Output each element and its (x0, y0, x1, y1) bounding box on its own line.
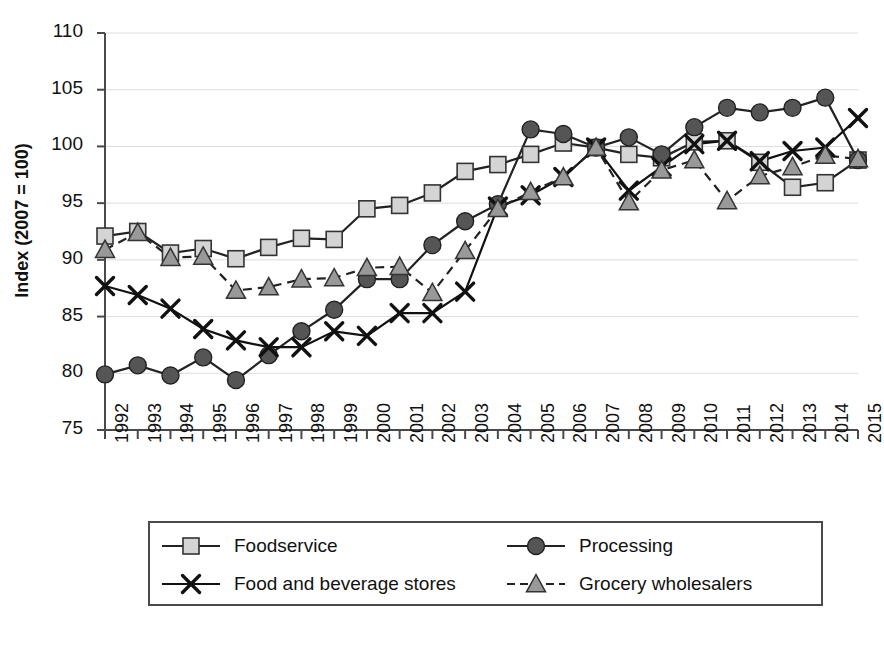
marker-circle (227, 372, 244, 389)
x-tick-label: 2002 (439, 403, 460, 443)
marker-circle (719, 99, 736, 116)
x-tick-label: 2009 (669, 403, 690, 443)
x-tick-label: 1999 (341, 403, 362, 443)
marker-circle (555, 125, 572, 142)
marker-x (162, 300, 179, 317)
x-tick-label: 2004 (505, 403, 526, 443)
x-tick-label: 2007 (603, 403, 624, 443)
series-line (105, 118, 858, 347)
x-tick-label: 1995 (210, 403, 231, 443)
marker-square (523, 146, 539, 162)
marker-x (850, 110, 867, 127)
x-tick-label: 2001 (407, 403, 428, 443)
marker-circle (293, 323, 310, 340)
legend-swatch-circle-icon (505, 534, 567, 558)
marker-x (227, 332, 244, 349)
marker-square (817, 175, 833, 191)
y-tick-label: 110 (37, 20, 83, 42)
marker-circle (528, 538, 545, 555)
legend-label: Food and beverage stores (234, 573, 456, 595)
marker-square (424, 185, 440, 201)
legend-swatch-x-icon (160, 572, 222, 596)
x-tick-label: 2000 (374, 403, 395, 443)
y-tick-label: 75 (37, 417, 83, 439)
marker-square (326, 231, 342, 247)
marker-circle (162, 367, 179, 384)
y-tick-label: 95 (37, 190, 83, 212)
x-tick-label: 2015 (865, 403, 884, 443)
marker-circle (686, 119, 703, 136)
x-tick-label: 2010 (701, 403, 722, 443)
y-axis-label-container: Index (2007 = 100) (2, 0, 42, 440)
marker-square (490, 157, 506, 173)
marker-triangle (357, 258, 376, 275)
x-tick-label: 1993 (145, 403, 166, 443)
gridlines (105, 33, 858, 373)
marker-square (392, 197, 408, 213)
marker-circle (620, 129, 637, 146)
marker-square (293, 230, 309, 246)
axes (97, 33, 858, 430)
series-markers (97, 89, 867, 388)
series-foodservice (105, 141, 858, 259)
y-axis-label: Index (2007 = 100) (12, 143, 33, 298)
marker-circle (129, 357, 146, 374)
marker-circle (195, 349, 212, 366)
marker-triangle (718, 191, 737, 208)
series-grocery-wholesalers (105, 148, 858, 293)
legend-item-processing[interactable]: Processing (505, 533, 673, 559)
marker-triangle (456, 241, 475, 258)
x-tick-label: 2008 (636, 403, 657, 443)
marker-x (457, 283, 474, 300)
x-tick-label: 2006 (570, 403, 591, 443)
legend-label: Foodservice (234, 535, 338, 557)
x-tick-label: 1996 (243, 403, 264, 443)
legend-item-foodservice[interactable]: Foodservice (160, 533, 338, 559)
series-line (105, 148, 858, 293)
series-layer (96, 89, 868, 388)
marker-circle (522, 121, 539, 138)
marker-square (261, 239, 277, 255)
y-tick-label: 90 (37, 247, 83, 269)
legend-label: Grocery wholesalers (579, 573, 752, 595)
marker-x (195, 321, 212, 338)
legend-item-grocery-wholesalers[interactable]: Grocery wholesalers (505, 571, 752, 597)
marker-square (359, 201, 375, 217)
y-tick-label: 100 (37, 133, 83, 155)
y-tick-label: 80 (37, 360, 83, 382)
legend-item-food-and-beverage-stores[interactable]: Food and beverage stores (160, 571, 456, 597)
x-tick-label: 1997 (276, 403, 297, 443)
marker-circle (751, 104, 768, 121)
series-line (105, 98, 858, 380)
marker-circle (97, 366, 114, 383)
marker-square (228, 251, 244, 267)
legend-swatch-triangle-icon (505, 572, 567, 596)
x-tick-label: 2014 (832, 403, 853, 443)
series-processing (105, 98, 858, 380)
marker-triangle (325, 269, 344, 286)
y-tick-label: 105 (37, 77, 83, 99)
legend: FoodserviceProcessingFood and beverage s… (148, 521, 823, 606)
y-tick-label: 85 (37, 304, 83, 326)
marker-circle (326, 301, 343, 318)
marker-triangle (226, 281, 245, 298)
marker-circle (817, 89, 834, 106)
x-tick-label: 2003 (472, 403, 493, 443)
series-line (105, 141, 858, 259)
marker-circle (784, 99, 801, 116)
marker-square (785, 179, 801, 195)
x-tick-label: 1992 (112, 403, 133, 443)
chart-figure: Index (2007 = 100) 7580859095100105110 1… (0, 0, 884, 647)
legend-label: Processing (579, 535, 673, 557)
marker-square (183, 538, 199, 554)
series-food-and-beverage-stores (105, 118, 858, 347)
marker-triangle (527, 575, 546, 592)
marker-circle (457, 213, 474, 230)
x-tick-label: 1998 (308, 403, 329, 443)
marker-circle (424, 237, 441, 254)
x-tick-label: 2011 (734, 404, 755, 443)
x-tick-label: 2013 (800, 403, 821, 443)
x-tick-label: 1994 (177, 403, 198, 443)
marker-square (457, 163, 473, 179)
legend-swatch-square-icon (160, 534, 222, 558)
